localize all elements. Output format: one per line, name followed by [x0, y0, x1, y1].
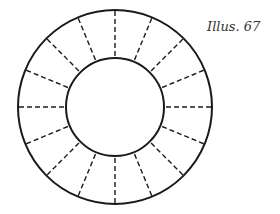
- radial-dashed-line: [47, 143, 79, 175]
- radial-dashed-line: [47, 39, 79, 71]
- radial-dashed-line: [26, 127, 68, 144]
- radial-dashed-line: [162, 127, 204, 144]
- illustration-caption: Illus. 67: [207, 19, 260, 34]
- radial-dashed-line: [135, 18, 152, 60]
- inner-circle: [66, 58, 164, 156]
- radial-dashed-line: [162, 70, 204, 87]
- radial-dashed-line: [151, 143, 183, 175]
- radial-dashed-line: [151, 39, 183, 71]
- radial-divisions: [19, 11, 211, 203]
- radial-dashed-line: [78, 154, 95, 196]
- radial-dashed-line: [78, 18, 95, 60]
- radial-dashed-line: [26, 70, 68, 87]
- radial-dashed-line: [135, 154, 152, 196]
